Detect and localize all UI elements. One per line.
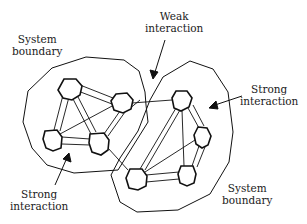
strong-right-arrow-head-icon [209, 101, 218, 109]
node-L1 [58, 79, 82, 100]
node-R1 [172, 91, 192, 111]
right-system-boundary [111, 61, 233, 212]
strong-left-arrow-head-icon [63, 153, 71, 162]
label-strong-interaction-left: Strong interaction [10, 188, 68, 212]
node-L2 [111, 93, 133, 113]
node-R3 [126, 169, 147, 190]
node-L3 [43, 130, 62, 151]
node-R2 [194, 127, 211, 148]
node-R4 [178, 166, 196, 186]
diagram-canvas: System boundary Weak interaction Strong … [0, 0, 307, 224]
nodes [43, 79, 211, 190]
strong-left-arrow [55, 160, 66, 185]
label-weak-interaction: Weak interaction [145, 10, 203, 34]
weak-interaction-arrow [155, 40, 165, 72]
label-system-boundary-left: System boundary [12, 33, 63, 57]
left-system-boundary [23, 57, 148, 173]
node-L4 [89, 133, 109, 155]
label-system-boundary-right: System boundary [222, 182, 273, 206]
label-strong-interaction-right: Strong interaction [240, 83, 298, 107]
weak-arrow-head-icon [150, 70, 158, 79]
